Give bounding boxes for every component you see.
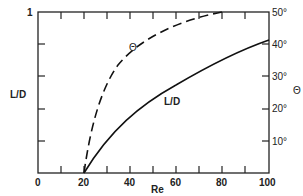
- right-tick-20: 20°: [272, 104, 287, 114]
- right-axis-label: Θ: [293, 86, 301, 96]
- left-ticks: [38, 44, 45, 141]
- x-tick-60: 60: [170, 178, 181, 188]
- left-tick-1: 1: [27, 8, 33, 18]
- x-tick-20: 20: [78, 178, 89, 188]
- right-tick-10: 10°: [272, 137, 287, 147]
- plot-area: [0, 0, 303, 196]
- x-tick-80: 80: [216, 178, 227, 188]
- theta-curve-label: Θ: [129, 43, 137, 53]
- right-tick-40: 40°: [272, 40, 287, 50]
- right-tick-50: 50°: [272, 8, 287, 18]
- ld-curve-label: L/D: [164, 97, 180, 107]
- x-axis-label: Re: [151, 185, 164, 195]
- theta-curve: [84, 12, 222, 173]
- x-tick-0: 0: [35, 178, 41, 188]
- left-axis-label: L/D: [10, 90, 26, 100]
- right-tick-30: 30°: [272, 72, 287, 82]
- chart: 0 20 40 60 80 100 Re 1 L/D 50° 40° 30° 2…: [0, 0, 303, 196]
- right-ticks: [262, 44, 269, 141]
- x-tick-100: 100: [259, 178, 276, 188]
- x-tick-40: 40: [124, 178, 135, 188]
